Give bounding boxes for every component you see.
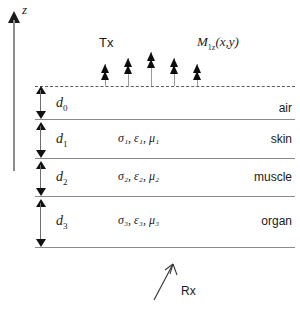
tx-field-arrow: [193, 64, 202, 86]
skin-material-properties: σ₁, ε₁, μ₁: [118, 131, 238, 145]
d1-subscript: 1: [63, 139, 68, 149]
rx-label: Rx: [181, 284, 196, 298]
layer-name-muscle: muscle: [254, 170, 292, 184]
d1-thickness-label: d1: [56, 131, 68, 152]
d0-arrowhead-up-icon: [36, 86, 46, 94]
layer-name-skin: skin: [271, 132, 292, 146]
d2-subscript: 2: [63, 177, 68, 187]
tx-field-arrow: [147, 52, 156, 86]
organ-bottom-boundary: [35, 247, 295, 248]
d3-arrowhead-down-icon: [36, 239, 46, 247]
organ-material-properties: σ₃, ε₃, μ₃: [118, 213, 238, 227]
z-axis-line: [13, 20, 15, 171]
d0-arrowhead-down-icon: [36, 111, 46, 119]
tx-field-arrow: [124, 58, 133, 86]
d1-arrowhead-down-icon: [36, 150, 46, 158]
muscle-material-properties: σ₂, ε₂, μ₂: [118, 169, 238, 183]
d1-arrowhead-up-icon: [36, 122, 46, 130]
layer-name-air: air: [279, 101, 292, 115]
magnetization-symbol: M: [197, 34, 208, 49]
muscle-organ-boundary: [35, 196, 295, 197]
magnetization-label: M1z(x,y): [197, 34, 239, 55]
skin-muscle-boundary: [35, 158, 295, 159]
tx-field-arrow: [101, 64, 110, 86]
d0-symbol: d: [56, 95, 63, 110]
air-skin-boundary: [35, 119, 295, 120]
d0-subscript: 0: [63, 103, 68, 113]
d1-symbol: d: [56, 131, 63, 146]
d3-arrowhead-up-icon: [36, 199, 46, 207]
diagram-canvas: z Tx M1z(x,y) d0 air: [0, 0, 300, 312]
tx-label: Tx: [99, 35, 113, 50]
air-top-boundary-dashed: [35, 86, 295, 87]
d3-subscript: 3: [63, 221, 68, 231]
d3-dimension-shaft: [40, 203, 41, 243]
layer-name-organ: organ: [261, 214, 292, 228]
d2-arrowhead-down-icon: [36, 188, 46, 196]
d2-thickness-label: d2: [56, 169, 68, 190]
magnetization-arguments: (x,y): [215, 34, 238, 49]
d3-thickness-label: d3: [56, 213, 68, 234]
d0-thickness-label: d0: [56, 95, 68, 116]
d2-arrowhead-up-icon: [36, 161, 46, 169]
d2-symbol: d: [56, 169, 63, 184]
rx-antenna-group: Rx: [150, 258, 210, 308]
z-axis-label: z: [22, 3, 27, 17]
d3-symbol: d: [56, 213, 63, 228]
tx-field-arrow: [170, 58, 179, 86]
